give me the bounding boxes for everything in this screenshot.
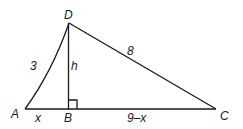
side-dc: [69, 23, 216, 109]
side-label-ab: x: [34, 111, 42, 125]
side-label-dc: 8: [127, 44, 134, 58]
vertex-label-b: B: [64, 111, 72, 125]
right-angle-marker: [69, 100, 78, 109]
side-label-ad: 3: [30, 59, 37, 73]
side-label-db: h: [71, 59, 78, 73]
triangle-diagram: D A B C 3 h 8 x 9–x: [0, 0, 243, 129]
vertex-label-c: C: [220, 109, 229, 123]
vertex-label-d: D: [64, 8, 73, 22]
vertex-label-a: A: [10, 107, 19, 121]
side-label-bc: 9–x: [127, 111, 147, 125]
